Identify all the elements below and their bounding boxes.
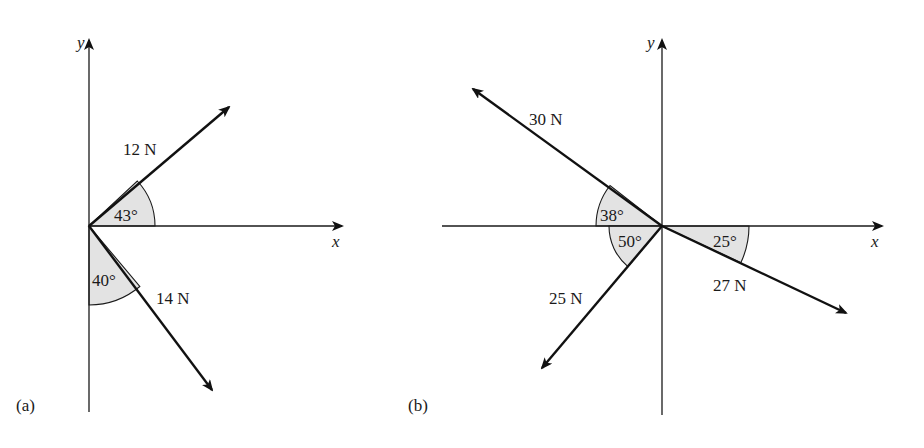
panel-label-a: (a) xyxy=(16,396,35,415)
force-vector-30n xyxy=(473,89,662,226)
x-axis-label: x xyxy=(331,232,340,251)
angle-label-25: 25° xyxy=(713,232,737,251)
force-label-27n: 27 N xyxy=(713,276,747,295)
angle-label-43: 43° xyxy=(114,206,138,225)
angle-label-50: 50° xyxy=(618,232,642,251)
panel-b: y x 30 N 38° 50° 25 N 25° 27 N (b) xyxy=(408,33,882,415)
force-vector-14n xyxy=(89,226,212,390)
force-label-12n: 12 N xyxy=(123,140,157,159)
x-axis-label: x xyxy=(870,232,879,251)
panel-a: y x 12 N 43° 40° 14 N (a) xyxy=(16,33,342,415)
panel-label-b: (b) xyxy=(408,396,428,415)
force-label-25n: 25 N xyxy=(549,289,583,308)
force-label-14n: 14 N xyxy=(156,289,190,308)
angle-label-38: 38° xyxy=(600,206,624,225)
force-diagrams: y x 12 N 43° 40° 14 N (a) y x 30 N 38° 5… xyxy=(0,0,924,448)
y-axis-label: y xyxy=(75,33,85,52)
angle-label-40: 40° xyxy=(92,271,116,290)
force-label-30n: 30 N xyxy=(529,110,563,129)
y-axis-label: y xyxy=(645,33,655,52)
force-vector-27n xyxy=(662,226,846,313)
force-vector-12n xyxy=(89,107,229,226)
